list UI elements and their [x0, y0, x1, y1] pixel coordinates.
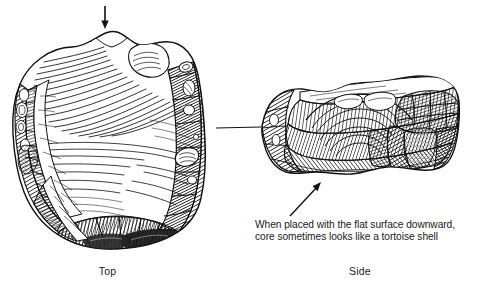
illustration-canvas: When placed with the flat surface downwa…: [0, 0, 484, 292]
side-view-label: Side: [300, 265, 420, 277]
tortoise-shell-caption: When placed with the flat surface downwa…: [255, 219, 481, 242]
side-view-core: [262, 76, 460, 175]
top-view-label: Top: [0, 265, 215, 277]
line-art-drawing: [0, 0, 484, 292]
caption-line-1: When placed with the flat surface downwa…: [255, 219, 481, 231]
caption-line-2: core sometimes looks like a tortoise she…: [255, 231, 481, 243]
down-arrow-icon: [101, 6, 108, 29]
caption-pointer-arrow-icon: [290, 182, 321, 216]
view-connector-line: [216, 127, 261, 128]
top-view-core: [13, 31, 206, 250]
